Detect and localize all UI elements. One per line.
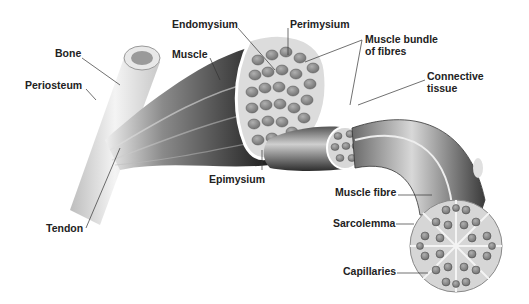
label-sarcolemma: Sarcolemma — [333, 217, 395, 229]
label-epimysium: Epimysium — [209, 173, 265, 185]
muscle-fibre-cross-section — [410, 200, 502, 292]
label-muscle-bundle-line2: of fibres — [365, 45, 406, 57]
label-perimysium: Perimysium — [290, 18, 350, 30]
label-connective-line2: tissue — [427, 82, 457, 94]
muscle-anatomy-diagram: Bone Periosteum Tendon Endomysium Muscle… — [0, 0, 529, 304]
label-periosteum: Periosteum — [25, 79, 82, 91]
label-connective-line1: Connective — [427, 70, 484, 82]
label-muscle-fibre: Muscle fibre — [335, 186, 396, 198]
label-capillaries: Capillaries — [343, 265, 396, 277]
label-endomysium: Endomysium — [172, 18, 238, 30]
label-muscle-bundle-line1: Muscle bundle — [365, 33, 438, 45]
label-muscle: Muscle — [172, 48, 208, 60]
label-tendon: Tendon — [46, 222, 83, 234]
diagram-artwork — [0, 0, 529, 304]
label-bone: Bone — [55, 47, 81, 59]
